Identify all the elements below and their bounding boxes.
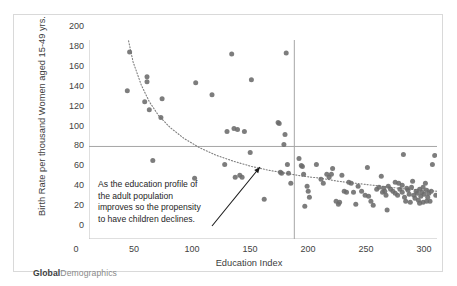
data-point <box>379 174 384 179</box>
data-point <box>403 199 408 204</box>
data-point <box>145 79 150 84</box>
data-point <box>229 51 234 56</box>
data-point <box>349 181 354 186</box>
data-point <box>377 185 382 190</box>
data-point <box>125 88 130 93</box>
y-tick-label: 60 <box>58 160 84 170</box>
data-point <box>248 150 253 155</box>
data-point <box>158 115 163 120</box>
annotation-text: As the education profile ofthe adult pop… <box>98 179 238 225</box>
y-tick-label: 100 <box>58 121 84 131</box>
data-point <box>400 183 405 188</box>
data-point <box>286 171 291 176</box>
data-point <box>262 197 267 202</box>
annotation-line: improves so the propensity <box>98 202 238 214</box>
annotation-line: to have children declines. <box>98 214 238 226</box>
data-point <box>249 77 254 82</box>
data-point <box>371 203 376 208</box>
trendline <box>127 40 437 191</box>
y-tick-label: 20 <box>58 200 84 210</box>
data-point <box>160 96 165 101</box>
data-point <box>359 189 364 194</box>
data-point <box>321 181 326 186</box>
x-tick-label: 0 <box>61 244 91 254</box>
data-point <box>240 175 245 180</box>
y-tick-label: 0 <box>58 220 84 230</box>
data-point <box>385 208 390 213</box>
data-point <box>142 99 147 104</box>
data-point <box>353 202 358 207</box>
data-point <box>366 194 371 199</box>
y-tick-label: 180 <box>58 41 84 51</box>
data-point <box>302 204 307 209</box>
data-point <box>429 189 434 194</box>
chart-frame: Birth Rate per thousand Women aged 15-49… <box>13 14 443 272</box>
annotation-line: As the education profile of <box>98 179 238 191</box>
data-point <box>356 184 361 189</box>
data-point <box>147 107 152 112</box>
data-point <box>210 92 215 97</box>
data-point <box>408 200 413 205</box>
data-point <box>424 199 429 204</box>
logo-bold-text: Global <box>33 268 60 278</box>
data-point <box>430 162 435 167</box>
x-axis-label: Education Index <box>169 258 329 268</box>
data-point <box>365 165 370 170</box>
clipped-title-remnant <box>0 0 457 3</box>
data-point <box>401 152 406 157</box>
x-tick-label: 150 <box>235 244 265 254</box>
data-point <box>225 129 230 134</box>
data-point <box>285 162 290 167</box>
data-point <box>281 142 286 147</box>
data-point <box>150 158 155 163</box>
data-point <box>395 193 400 198</box>
data-point <box>433 193 437 198</box>
data-point <box>306 189 311 194</box>
data-point <box>344 190 349 195</box>
data-point <box>339 173 344 178</box>
data-point <box>193 80 198 85</box>
annotation-line: the adult population <box>98 191 238 203</box>
data-point <box>307 195 312 200</box>
data-point <box>432 153 437 158</box>
data-point <box>384 193 389 198</box>
x-tick-label: 250 <box>351 244 381 254</box>
global-demographics-logo: GlobalDemographics <box>33 268 117 278</box>
data-point <box>407 192 412 197</box>
data-point <box>351 190 356 195</box>
x-tick-label: 200 <box>293 244 323 254</box>
data-point <box>127 49 132 54</box>
data-point <box>288 181 293 186</box>
data-point <box>400 190 405 195</box>
data-point <box>222 162 227 167</box>
y-axis-label: Birth Rate per thousand Women aged 15-49… <box>37 16 47 216</box>
data-point <box>314 162 319 167</box>
x-tick-label: 50 <box>119 244 149 254</box>
y-tick-label: 200 <box>58 21 84 31</box>
data-point <box>301 172 306 177</box>
data-point <box>421 185 426 190</box>
data-point <box>300 164 305 169</box>
data-point <box>417 201 422 206</box>
data-point <box>297 156 302 161</box>
data-point <box>279 171 284 176</box>
data-point <box>330 166 335 171</box>
y-tick-label: 140 <box>58 81 84 91</box>
data-point <box>283 132 288 137</box>
logo-light-text: Demographics <box>60 268 117 278</box>
data-point <box>145 74 150 79</box>
data-point <box>410 179 415 184</box>
data-point <box>337 200 342 205</box>
y-tick-label: 80 <box>58 140 84 150</box>
data-point <box>277 121 282 126</box>
x-tick-label: 300 <box>409 244 439 254</box>
data-point <box>305 184 310 189</box>
y-tick-label: 160 <box>58 61 84 71</box>
data-point <box>235 127 240 132</box>
y-tick-label: 40 <box>58 180 84 190</box>
data-point <box>329 172 334 177</box>
data-point <box>284 50 289 55</box>
x-tick-label: 100 <box>177 244 207 254</box>
y-tick-label: 120 <box>58 101 84 111</box>
data-point <box>409 185 414 190</box>
